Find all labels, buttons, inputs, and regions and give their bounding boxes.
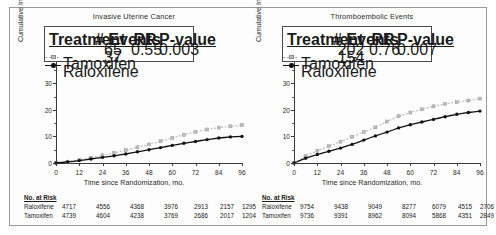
data-point-tamoxifen	[194, 130, 197, 133]
x-tick-label: 36	[360, 169, 367, 176]
y-tick	[53, 83, 56, 84]
data-point-raloxifene	[136, 150, 139, 153]
x-tick	[56, 163, 57, 166]
legend-label-raloxifene: Raloxifene	[63, 63, 139, 81]
data-point-tamoxifen	[136, 146, 139, 149]
data-point-raloxifene	[89, 157, 92, 160]
legend-label-raloxifene: Raloxifene	[301, 63, 377, 81]
data-point-raloxifene	[327, 150, 330, 153]
data-point-tamoxifen	[182, 133, 185, 136]
x-tick-label: 48	[145, 169, 152, 176]
risk-count: 3769	[164, 212, 178, 219]
y-tick-label: 0	[286, 160, 290, 167]
x-tick	[294, 163, 295, 166]
y-tick	[53, 110, 56, 111]
risk-count: 9391	[334, 212, 348, 219]
data-point-raloxifene	[374, 134, 377, 137]
legend-box: Treatment# EventsRRP-value Tamoxifen 650…	[44, 26, 194, 62]
x-tick-label: 48	[383, 169, 390, 176]
risk-count: 4351	[458, 212, 472, 219]
panel-title: Invasive Uterine Cancer	[10, 12, 258, 21]
data-point-tamoxifen	[217, 126, 220, 129]
risk-count: 2686	[194, 212, 208, 219]
data-point-raloxifene	[316, 153, 319, 156]
risk-table-header: No. at Risk	[262, 194, 295, 201]
data-point-raloxifene	[205, 138, 208, 141]
y-tick	[291, 83, 294, 84]
x-tick	[387, 163, 388, 166]
data-point-raloxifene	[101, 156, 104, 159]
data-point-raloxifene	[420, 120, 423, 123]
risk-count: 2157	[220, 203, 234, 210]
data-point-tamoxifen	[171, 137, 174, 140]
x-tick	[126, 163, 127, 166]
x-tick-label: 60	[169, 169, 176, 176]
risk-count: 4556	[96, 203, 110, 210]
risk-count: 4368	[130, 203, 144, 210]
y-tick-label: 0	[48, 160, 52, 167]
risk-row-label: Tamoxifen	[24, 212, 58, 219]
data-point-tamoxifen	[374, 126, 377, 129]
data-point-raloxifene	[217, 136, 220, 139]
data-point-tamoxifen	[148, 143, 151, 146]
data-point-raloxifene	[455, 113, 458, 116]
data-point-raloxifene	[124, 152, 127, 155]
x-tick-label: 60	[407, 169, 414, 176]
panel-thromboembolic-events: Thromboembolic Events Cumulative Inciden…	[248, 8, 496, 227]
curve-raloxifene	[294, 111, 480, 163]
y-minor-tick	[292, 150, 294, 151]
y-minor-tick	[54, 123, 56, 124]
x-tick-label: 84	[215, 169, 222, 176]
data-point-tamoxifen	[339, 140, 342, 143]
data-point-raloxifene	[229, 135, 232, 138]
data-point-tamoxifen	[113, 151, 116, 154]
x-tick	[434, 163, 435, 166]
data-point-tamoxifen	[420, 108, 423, 111]
x-tick	[480, 163, 481, 166]
data-point-tamoxifen	[455, 101, 458, 104]
panel-title: Thromboembolic Events	[248, 12, 496, 21]
data-point-raloxifene	[443, 115, 446, 118]
data-point-raloxifene	[409, 123, 412, 126]
x-tick-label: 24	[99, 169, 106, 176]
data-point-tamoxifen	[327, 145, 330, 148]
y-axis-label: Cumulative Incidence, per 1000	[17, 0, 24, 42]
data-point-raloxifene	[78, 159, 81, 162]
x-tick-label: 96	[476, 169, 483, 176]
x-tick	[172, 163, 173, 166]
y-minor-tick	[54, 150, 56, 151]
x-tick	[196, 163, 197, 166]
x-tick-label: 96	[238, 169, 245, 176]
y-minor-tick	[292, 123, 294, 124]
risk-count: 4238	[130, 212, 144, 219]
risk-count: 4717	[62, 203, 76, 210]
y-tick	[53, 136, 56, 137]
data-point-tamoxifen	[241, 124, 244, 127]
data-point-raloxifene	[432, 118, 435, 121]
y-tick	[291, 110, 294, 111]
legend-box: Treatment# EventsRRP-value Tamoxifen 202…	[282, 26, 432, 62]
data-point-tamoxifen	[397, 115, 400, 118]
risk-row-label: Tamoxifen	[262, 212, 296, 219]
risk-count: 2849	[480, 212, 494, 219]
data-point-raloxifene	[182, 142, 185, 145]
data-point-raloxifene	[66, 160, 69, 163]
x-tick	[103, 163, 104, 166]
x-tick	[79, 163, 80, 166]
data-point-tamoxifen	[386, 120, 389, 123]
risk-count: 4604	[96, 212, 110, 219]
x-tick	[242, 163, 243, 166]
x-tick	[410, 163, 411, 166]
y-minor-tick	[292, 70, 294, 71]
data-point-tamoxifen	[409, 111, 412, 114]
raloxifene-marker-icon	[283, 62, 299, 69]
data-point-raloxifene	[240, 135, 243, 138]
data-point-tamoxifen	[444, 102, 447, 105]
risk-count: 9049	[368, 203, 382, 210]
x-axis-label: Time since Randomization, mo.	[248, 178, 496, 187]
y-minor-tick	[54, 97, 56, 98]
risk-row-label: Raloxifene	[24, 203, 58, 210]
y-axis-label: Cumulative Incidence, per 1000	[255, 0, 262, 42]
risk-count: 8094	[402, 212, 416, 219]
x-tick	[149, 163, 150, 166]
